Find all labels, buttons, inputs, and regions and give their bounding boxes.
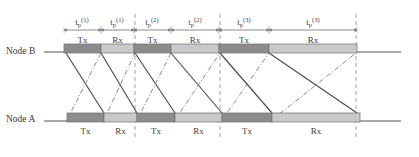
delay-label-tp-3a: tp(3) xyxy=(237,16,250,28)
node-b-segment-rx-4 xyxy=(171,44,219,53)
delay-label-tp-1a: tp(1) xyxy=(75,16,88,28)
node-a-segment-label-rx-4: Rx xyxy=(193,126,204,136)
node-b-segment-label-tx-5: Tx xyxy=(239,35,249,45)
node-axis-lines xyxy=(44,52,401,121)
timing-diagram-canvas xyxy=(0,0,419,157)
node-b-segment-tx-5 xyxy=(219,44,269,53)
node-b-segment-label-rx-2: Rx xyxy=(112,35,123,45)
node-a-segment-rx-6 xyxy=(272,113,360,122)
delay-label-tp-1b: tp(1) xyxy=(110,16,123,28)
node-b-segment-label-tx-1: Tx xyxy=(78,35,88,45)
node-a-segment-tx-1 xyxy=(67,113,104,122)
node-a-segment-rx-4 xyxy=(175,113,222,122)
ray-dashdot-4 xyxy=(104,53,135,120)
dimension-arrow-left-tp-2b xyxy=(171,28,174,31)
node-b-segment-tx-1 xyxy=(64,44,101,53)
node-b-segment-label-rx-6: Rx xyxy=(308,35,319,45)
dimension-arrow-left-tp-1a xyxy=(64,28,67,31)
delay-label-superscript-tp-3a: (3) xyxy=(243,16,251,23)
node-b-segment-rx-2 xyxy=(101,44,134,53)
ray-solid-1 xyxy=(66,53,104,113)
node-a-segment-tx-5 xyxy=(222,113,272,122)
delay-label-superscript-tp-2a: (2) xyxy=(151,16,159,23)
ray-solid-9 xyxy=(220,53,272,113)
propagation-rays xyxy=(66,53,357,120)
ray-solid-11 xyxy=(269,53,357,113)
node-a-segment-tx-3 xyxy=(137,113,175,122)
node-b-segment-tx-3 xyxy=(134,44,171,53)
node-a-segment-label-tx-3: Tx xyxy=(151,126,161,136)
node-a-segment-rx-2 xyxy=(104,113,137,122)
node-a-segment-label-rx-6: Rx xyxy=(311,126,322,136)
dimension-lines xyxy=(64,27,357,34)
node-b-segment-rx-6 xyxy=(269,44,357,53)
delay-label-tp-3b: tp(3) xyxy=(306,16,319,28)
dimension-arrow-right-tp-1b xyxy=(131,28,134,31)
dimension-arrow-left-tp-1b xyxy=(101,28,104,31)
node-a-segment-label-tx-1: Tx xyxy=(81,126,91,136)
node-b-label: Node B xyxy=(6,46,35,56)
dimension-arrow-right-tp-1a xyxy=(98,28,101,31)
delay-label-superscript-tp-1b: (1) xyxy=(116,16,124,23)
timing-diagram: Node B Node A TxRxTxRxTxRx TxRxTxRxTxRx … xyxy=(0,0,419,157)
dimension-arrow-right-tp-2b xyxy=(216,28,219,31)
ray-solid-3 xyxy=(101,53,137,113)
delay-label-tp-2a: tp(2) xyxy=(145,16,158,28)
dimension-arrow-right-tp-2a xyxy=(168,28,171,31)
dimension-arrow-left-tp-3b xyxy=(269,28,272,31)
node-b-segment-label-rx-4: Rx xyxy=(190,35,201,45)
ray-solid-5 xyxy=(135,53,175,113)
delay-label-superscript-tp-3b: (3) xyxy=(312,16,320,23)
delay-label-superscript-tp-1a: (1) xyxy=(81,16,89,23)
node-a-label: Node A xyxy=(6,114,35,124)
ray-dashdot-8 xyxy=(175,53,220,120)
node-a-segment-label-tx-5: Tx xyxy=(242,126,252,136)
node-b-segment-label-tx-3: Tx xyxy=(148,35,158,45)
node-a-segment-label-rx-2: Rx xyxy=(115,126,126,136)
dimension-arrow-right-tp-3a xyxy=(266,28,269,31)
delay-label-superscript-tp-2b: (2) xyxy=(194,16,202,23)
delay-label-tp-2b: tp(2) xyxy=(188,16,201,28)
